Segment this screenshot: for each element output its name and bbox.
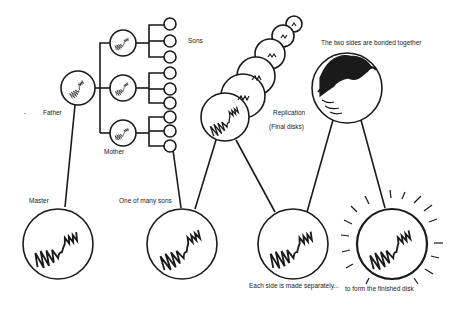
replication-disk	[201, 93, 249, 141]
label-finished: to form the finished disk	[345, 285, 414, 292]
label-dash: -	[24, 109, 26, 116]
label-mother: Mother	[104, 148, 124, 155]
line-father-master	[65, 105, 75, 207]
line-son-rep	[195, 140, 216, 209]
label-each-side: Each side is made separately...	[249, 282, 339, 289]
finished-disk	[357, 209, 427, 279]
father-disk	[61, 71, 95, 105]
label-father: Father	[43, 109, 62, 116]
diagram-canvas	[0, 0, 466, 309]
label-one-of-many-sons: One of many sons	[119, 197, 172, 204]
master-disk	[23, 209, 93, 279]
label-sons: Sons	[188, 37, 203, 44]
label-replication: Replication	[273, 109, 305, 116]
line-bonded-finished	[361, 120, 385, 208]
line-son-sons	[173, 150, 181, 208]
label-final-disks: (Final disks)	[269, 123, 304, 130]
line-rep-side	[236, 140, 275, 212]
mother-disk-2	[110, 75, 136, 101]
label-master: Master	[29, 197, 49, 204]
mother-disk-1	[110, 30, 136, 56]
mother-disk-3	[110, 120, 136, 146]
side-disk	[258, 209, 328, 279]
son-disk	[147, 209, 217, 279]
line-side-bonded	[307, 120, 333, 212]
label-bonded: The two sides are bonded together	[321, 39, 421, 46]
